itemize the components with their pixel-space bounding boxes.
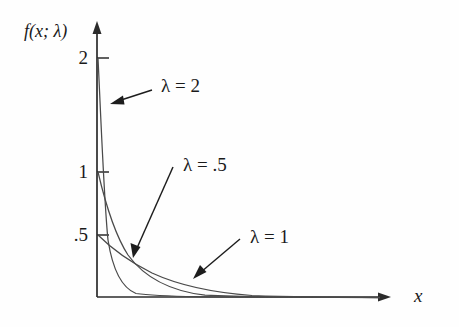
series-label-lambda-2: λ = 2	[161, 76, 200, 95]
y-axis-arrowhead	[93, 21, 102, 34]
curve-lambda-point5	[98, 235, 380, 298]
leader-line-lambda-point5	[137, 167, 173, 248]
curve-lambda-1	[98, 172, 380, 298]
y-tick-label-point5: .5	[40, 225, 88, 244]
exponential-pdf-figure: f(x; λ) x 2 1 .5 λ = 2 λ = .5 λ = 1	[0, 0, 459, 327]
leader-arrowhead-lambda-2	[110, 96, 125, 105]
series-label-lambda-point5: λ = .5	[183, 155, 227, 174]
leader-arrowhead-lambda-1	[193, 265, 207, 279]
series-label-lambda-1: λ = 1	[250, 227, 289, 246]
leader-line-lambda-1	[201, 239, 240, 272]
x-axis-label: x	[414, 286, 422, 305]
y-axis-label: f(x; λ)	[24, 22, 67, 40]
y-tick-label-2: 2	[44, 48, 88, 67]
y-tick-label-1: 1	[44, 162, 88, 181]
